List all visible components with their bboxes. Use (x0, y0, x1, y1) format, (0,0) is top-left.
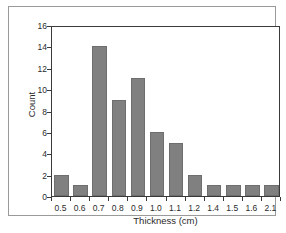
histogram-bar (169, 143, 184, 196)
x-tick-mark (108, 197, 109, 201)
y-tick-mark (47, 90, 52, 91)
bars-layer (52, 27, 279, 196)
histogram-bar (112, 100, 127, 196)
y-tick-mark (47, 133, 52, 134)
x-axis-title: Thickness (cm) (51, 215, 280, 226)
y-tick-mark (47, 47, 52, 48)
histogram-bar (54, 175, 69, 196)
y-tick-mark (47, 154, 52, 155)
x-tick-mark (280, 197, 281, 201)
y-tick-label: 14 (25, 43, 47, 51)
histogram-bar (131, 78, 146, 196)
y-tick-mark (47, 176, 52, 177)
histogram-figure: 0246810121416 0.50.60.70.80.91.01.11.21.… (0, 0, 286, 233)
plot-area (51, 26, 280, 197)
figure-border: 0246810121416 0.50.60.70.80.91.01.11.21.… (8, 6, 276, 216)
y-tick-label: 12 (25, 65, 47, 73)
histogram-bar (150, 132, 165, 196)
y-tick-label: 4 (25, 150, 47, 158)
x-tick-mark (261, 197, 262, 201)
histogram-bar (92, 46, 107, 196)
histogram-bar (245, 185, 260, 196)
x-tick-mark (166, 197, 167, 201)
y-tick-mark (47, 112, 52, 113)
y-tick-mark (47, 69, 52, 70)
histogram-bar (207, 185, 222, 196)
x-tick-mark (223, 197, 224, 201)
x-tick-mark (185, 197, 186, 201)
y-tick-label: 16 (25, 22, 47, 30)
histogram-bar (264, 185, 279, 196)
histogram-bar (226, 185, 241, 196)
x-tick-mark (204, 197, 205, 201)
histogram-bar (73, 185, 88, 196)
y-axis-title: Count (26, 75, 37, 135)
x-tick-mark (127, 197, 128, 201)
y-tick-mark (47, 26, 52, 27)
histogram-bar (188, 175, 203, 196)
x-tick-mark (89, 197, 90, 201)
x-tick-label: 2.1 (258, 203, 282, 213)
y-tick-label: 0 (25, 193, 47, 201)
x-tick-mark (242, 197, 243, 201)
x-tick-mark (51, 197, 52, 201)
y-tick-label: 2 (25, 172, 47, 180)
x-tick-mark (70, 197, 71, 201)
x-tick-mark (146, 197, 147, 201)
